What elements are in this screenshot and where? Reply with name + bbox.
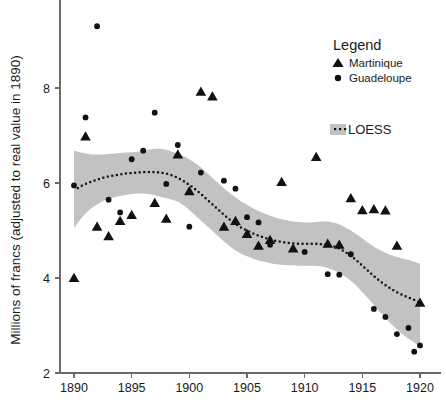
data-point-martinique (276, 177, 287, 186)
data-point-guadeloupe (336, 272, 342, 278)
y-tick-label: 8 (43, 82, 50, 96)
legend-title: Legend (333, 37, 381, 53)
data-point-martinique (392, 241, 403, 250)
data-point-guadeloupe (394, 331, 400, 337)
legend-label-guadeloupe: Guadeloupe (349, 72, 412, 84)
data-point-guadeloupe (256, 220, 262, 226)
data-point-guadeloupe (325, 271, 331, 277)
data-point-guadeloupe (186, 224, 192, 230)
legend-triangle-icon (332, 58, 343, 67)
data-point-martinique (80, 131, 91, 140)
y-tick-label: 6 (43, 177, 50, 191)
data-point-guadeloupe (71, 182, 77, 188)
data-point-guadeloupe (163, 181, 169, 187)
data-point-martinique (196, 87, 207, 96)
legend-label-loess: LOESS (348, 122, 392, 137)
x-tick-label: 1905 (233, 381, 261, 395)
data-point-martinique (103, 231, 114, 240)
data-point-guadeloupe (244, 214, 250, 220)
x-tick-label: 1920 (406, 381, 434, 395)
data-point-guadeloupe (221, 178, 227, 184)
data-point-martinique (346, 193, 357, 202)
x-tick-label: 1910 (291, 381, 319, 395)
data-point-martinique (115, 216, 126, 225)
data-point-martinique (311, 152, 322, 161)
data-point-guadeloupe (267, 242, 273, 248)
y-tick-label: 2 (43, 367, 50, 381)
x-tick-label: 1895 (118, 381, 146, 395)
legend-circle-icon (335, 75, 341, 81)
y-tick-label: 4 (43, 272, 50, 286)
y-axis-title: Millions of francs (adjusted to real val… (8, 55, 23, 345)
data-point-guadeloupe (417, 343, 423, 349)
data-point-guadeloupe (406, 325, 412, 331)
y-axis-ticks: 2468 (43, 82, 60, 381)
x-tick-label: 1900 (175, 381, 203, 395)
legend-loess-swatch (330, 124, 346, 135)
scatter-plot: 1890189519001905191019151920 2468 Millio… (0, 0, 446, 416)
data-point-martinique (149, 198, 160, 207)
data-point-guadeloupe (383, 314, 389, 320)
data-point-guadeloupe (233, 186, 239, 192)
chart-container: 1890189519001905191019151920 2468 Millio… (0, 0, 446, 416)
data-point-guadeloupe (117, 210, 123, 216)
data-point-guadeloupe (198, 170, 204, 176)
data-point-guadeloupe (83, 115, 89, 121)
data-point-martinique (207, 91, 218, 100)
data-point-guadeloupe (175, 142, 181, 148)
data-point-guadeloupe (94, 23, 100, 29)
data-point-martinique (92, 222, 103, 231)
data-point-martinique (161, 213, 172, 222)
data-point-guadeloupe (411, 349, 417, 355)
data-point-martinique (69, 273, 80, 282)
x-tick-label: 1890 (60, 381, 88, 395)
data-point-guadeloupe (302, 249, 308, 255)
data-point-martinique (126, 210, 137, 219)
data-point-martinique (357, 205, 368, 214)
x-tick-label: 1915 (348, 381, 376, 395)
data-point-guadeloupe (371, 306, 377, 312)
legend-loess-dots (334, 128, 346, 130)
legend-label-martinique: Martinique (349, 57, 403, 69)
data-point-guadeloupe (348, 251, 354, 257)
x-axis-ticks: 1890189519001905191019151920 (60, 373, 434, 395)
data-point-guadeloupe (106, 197, 112, 203)
data-point-guadeloupe (129, 156, 135, 162)
data-point-guadeloupe (140, 148, 146, 154)
data-point-martinique (380, 205, 391, 214)
data-point-martinique (369, 204, 380, 213)
data-point-guadeloupe (152, 110, 158, 116)
loess-confidence-band (74, 149, 420, 347)
legend: Legend Martinique Guadeloupe LOESS (330, 37, 412, 137)
